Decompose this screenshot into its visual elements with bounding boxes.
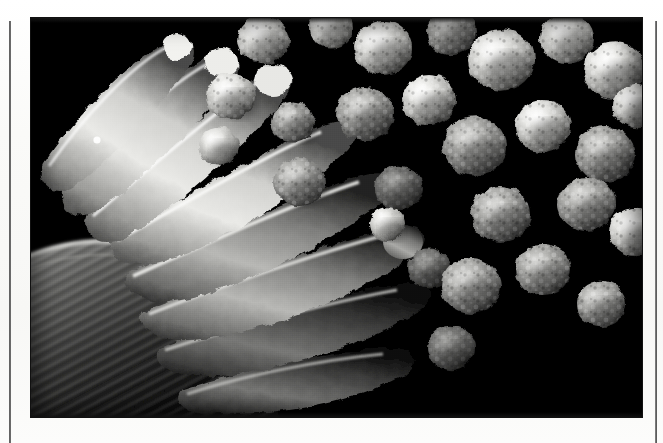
conidium xyxy=(237,18,290,64)
micrograph-canvas xyxy=(31,18,642,417)
scanned-page xyxy=(0,0,663,443)
sem-micrograph-photo xyxy=(31,18,642,417)
left-column-rule xyxy=(9,21,11,443)
right-column-rule xyxy=(655,21,657,443)
